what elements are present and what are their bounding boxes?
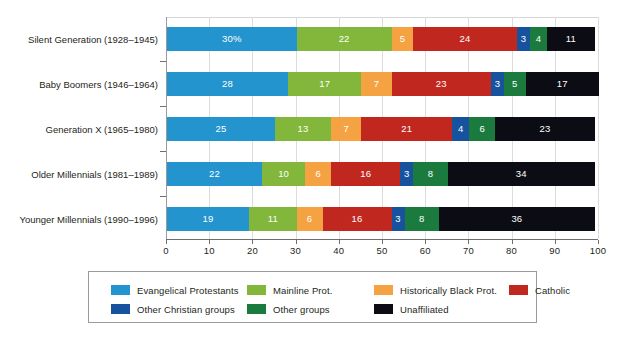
- legend-label: Unaffiliated: [400, 304, 449, 315]
- bar-segment-value: 11: [268, 214, 278, 224]
- bar-segment-value: 17: [319, 79, 330, 89]
- bar-row: 19116163836: [167, 207, 595, 231]
- x-tick-mark: [598, 240, 599, 244]
- bar-row: 28177233517: [167, 72, 599, 96]
- bar-segment: 8: [413, 162, 448, 186]
- x-tick-mark: [555, 240, 556, 244]
- bar-segment-value: 3: [521, 34, 526, 44]
- bar-segment: 36: [439, 207, 595, 231]
- bar-segment: 4: [530, 27, 547, 51]
- legend-label: Other groups: [273, 304, 330, 315]
- bar-segment-value: 6: [307, 214, 312, 224]
- x-tick-label: 90: [549, 245, 560, 256]
- bar-segment: 22: [297, 27, 392, 51]
- x-tick-label: 40: [333, 245, 344, 256]
- x-tick-mark: [382, 240, 383, 244]
- gridline: [598, 17, 599, 239]
- bar-segment-value: 6: [480, 124, 485, 134]
- legend-swatch: [247, 304, 266, 314]
- y-tick-mark: [160, 151, 166, 152]
- legend-label: Mainline Prot.: [273, 285, 332, 296]
- bar-segment-value: 7: [344, 124, 349, 134]
- legend-swatch: [111, 304, 130, 314]
- bar-segment-value: 10: [278, 169, 289, 179]
- bar-row: 25137214623: [167, 117, 595, 141]
- legend-item[interactable]: Mainline Prot.: [247, 283, 332, 297]
- x-tick-mark: [425, 240, 426, 244]
- category-label: Younger Millennials (1990–1996): [0, 214, 158, 225]
- bar-segment-value: 13: [298, 124, 309, 134]
- bar-segment: 34: [448, 162, 595, 186]
- bar-segment: 6: [305, 162, 331, 186]
- bar-segment-value: 23: [436, 79, 447, 89]
- bar-segment: 11: [547, 27, 595, 51]
- legend-swatch: [509, 285, 528, 295]
- stacked-bar-chart: 0102030405060708090100 Silent Generation…: [0, 0, 625, 337]
- bar-segment: 3: [392, 207, 405, 231]
- bar-segment: 5: [392, 27, 414, 51]
- bar-segment-value: 21: [401, 124, 412, 134]
- legend-item[interactable]: Historically Black Prot.: [374, 283, 497, 297]
- y-tick-mark: [160, 106, 166, 107]
- legend-label: Catholic: [535, 285, 570, 296]
- bar-segment: 28: [167, 72, 288, 96]
- bar-segment-value: 28: [222, 79, 233, 89]
- bar-segment: 25: [167, 117, 275, 141]
- bar-segment: 21: [361, 117, 452, 141]
- y-tick-mark: [160, 196, 166, 197]
- bar-segment: 19: [167, 207, 249, 231]
- x-tick-label: 100: [590, 245, 606, 256]
- bar-segment: 16: [331, 162, 400, 186]
- bar-segment: 13: [275, 117, 331, 141]
- legend-item[interactable]: Evangelical Protestants: [111, 283, 239, 297]
- bar-segment-value: 30%: [222, 34, 242, 44]
- legend-label: Historically Black Prot.: [400, 285, 497, 296]
- bar-segment-value: 3: [495, 79, 500, 89]
- legend-swatch: [374, 285, 393, 295]
- legend-item[interactable]: Other Christian groups: [111, 302, 235, 316]
- bar-segment: 22: [167, 162, 262, 186]
- bar-segment-value: 7: [374, 79, 379, 89]
- bar-segment: 6: [469, 117, 495, 141]
- bar-segment-value: 36: [511, 214, 522, 224]
- bar-segment: 23: [392, 72, 491, 96]
- category-label: Older Millennials (1981–1989): [0, 169, 158, 180]
- bar-segment: 3: [491, 72, 504, 96]
- bar-segment: 17: [288, 72, 361, 96]
- x-tick-label: 20: [247, 245, 258, 256]
- x-tick-label: 70: [463, 245, 474, 256]
- bar-segment: 30%: [167, 27, 297, 51]
- bar-segment: 17: [526, 72, 599, 96]
- x-tick-mark: [468, 240, 469, 244]
- legend-swatch: [374, 304, 393, 314]
- bar-segment-value: 16: [360, 169, 371, 179]
- x-tick-mark: [296, 240, 297, 244]
- bar-segment: 6: [297, 207, 323, 231]
- bar-row: 22106163834: [167, 162, 595, 186]
- bar-segment-value: 3: [395, 214, 400, 224]
- x-tick-label: 50: [377, 245, 388, 256]
- bar-segment-value: 4: [536, 34, 541, 44]
- legend-item[interactable]: Catholic: [509, 283, 570, 297]
- bar-segment-value: 22: [209, 169, 220, 179]
- legend-swatch: [111, 285, 130, 295]
- bar-segment-value: 24: [460, 34, 471, 44]
- bar-segment-value: 22: [339, 34, 350, 44]
- bar-segment: 23: [495, 117, 594, 141]
- x-tick-mark: [166, 240, 167, 244]
- bar-segment: 4: [452, 117, 469, 141]
- legend-item[interactable]: Other groups: [247, 302, 330, 316]
- x-tick-label: 30: [290, 245, 301, 256]
- legend-grid: Evangelical ProtestantsMainline Prot.His…: [89, 272, 536, 322]
- legend-item[interactable]: Unaffiliated: [374, 302, 449, 316]
- bar-segment: 24: [413, 27, 517, 51]
- bar-segment-value: 23: [539, 124, 550, 134]
- x-tick-label: 10: [204, 245, 215, 256]
- x-tick-mark: [252, 240, 253, 244]
- bar-segment-value: 6: [315, 169, 320, 179]
- y-tick-mark: [160, 61, 166, 62]
- x-tick-mark: [339, 240, 340, 244]
- bar-segment: 8: [405, 207, 440, 231]
- legend-label: Evangelical Protestants: [137, 285, 239, 296]
- category-label: Silent Generation (1928–1945): [0, 34, 158, 45]
